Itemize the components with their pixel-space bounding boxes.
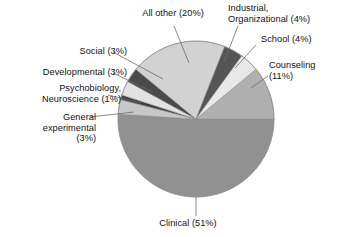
slice-label-general-line1: General	[63, 112, 96, 122]
slice-label-school: School (4%)	[261, 34, 335, 45]
slice-label-counseling: Counseling(11%)	[269, 60, 335, 81]
slice-label-industrial-organizational: Industrial,Organizational (4%)	[228, 3, 335, 24]
pie-slice-clinical	[118, 114, 274, 197]
slice-label-general-line3: (3%)	[76, 133, 96, 143]
slice-label-counseling-line1: Counseling	[269, 60, 315, 70]
slice-label-general-line2: experimental	[43, 123, 96, 133]
slice-label-psychobiology-line1: Psychobiology,	[59, 83, 121, 93]
slice-label-all-other: All other (20%)	[125, 8, 221, 19]
slice-label-industrial-line2: Organizational (4%)	[228, 14, 310, 24]
slice-label-general-experimental: Generalexperimental(3%)	[6, 112, 96, 144]
slice-label-clinical: Clinical (51%)	[133, 218, 243, 229]
pie-slice-group	[118, 41, 274, 197]
slice-label-psychobiology-neuroscience: Psychobiology,Neuroscience (1%)	[2, 83, 121, 104]
pie-chart: All other (20%) Industrial,Organizationa…	[0, 0, 337, 237]
slice-label-counseling-line2: (11%)	[269, 71, 293, 81]
slice-label-developmental: Developmental (3%)	[2, 67, 127, 78]
slice-label-psychobiology-line2: Neuroscience (1%)	[42, 94, 121, 104]
slice-label-industrial-line1: Industrial,	[228, 3, 268, 13]
slice-label-social: Social (3%)	[42, 46, 127, 57]
